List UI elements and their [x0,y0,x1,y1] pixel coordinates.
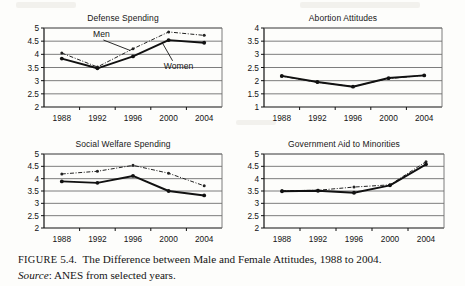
y-axis-tick-label: 3 [34,198,39,208]
y-axis-tick-label: 1.5 [247,89,259,99]
y-axis-tick-label: 4.5 [27,36,39,46]
y-axis-tick-label: 4.5 [27,161,39,171]
x-axis-tick-label: 1996 [344,113,363,123]
annotation-leader-women [163,43,173,61]
x-axis-tick-label: 1988 [53,113,72,123]
chart-title: Social Welfare Spending [18,139,228,149]
x-axis-tick-label: 1992 [88,234,107,244]
data-point-men [132,47,135,50]
chart-panel-government-aid-to-minorities: Government Aid to Minorities 22.533.544.… [238,139,450,251]
data-point-women [202,194,206,198]
figure-caption-text: The Difference between Male and Female A… [83,253,382,265]
x-axis-tick-label: 2000 [159,113,178,123]
source-text: : ANES from selected years. [49,269,176,281]
y-axis-tick-label: 3.5 [247,186,259,196]
y-axis-tick-label: 5 [254,150,259,159]
chart-title: Defense Spending [18,13,228,23]
y-axis-tick-label: 4 [34,174,39,184]
data-point-women [351,85,355,89]
data-point-men [167,30,170,33]
x-axis-tick-label: 2004 [195,234,214,244]
chart-panel-abortion-attitudes: Abortion Attitudes 11.522.533.5419881992… [238,13,448,131]
figure-number: 5.4. [60,253,77,265]
y-axis-tick-label: 2 [254,76,259,86]
data-point-women [167,189,171,193]
x-axis-tick-label: 1988 [273,234,292,244]
y-axis-tick-label: 4 [254,24,259,33]
x-axis-tick-label: 1996 [124,234,143,244]
data-point-men [203,184,206,187]
data-point-women [388,183,392,187]
x-axis-tick-label: 1988 [273,113,292,123]
data-point-men [353,186,356,189]
y-axis-tick-label: 2.5 [247,211,259,221]
data-point-women [280,189,284,193]
x-axis-tick-label: 2004 [417,234,436,244]
chart-panel-defense-spending: Defense Spending 22.533.544.551988199219… [18,13,228,131]
y-axis-tick-label: 3 [254,198,259,208]
data-point-men [132,164,135,167]
y-axis-tick-label: 3 [34,76,39,86]
data-point-men [60,172,63,175]
x-axis-tick-label: 1996 [124,113,143,123]
x-axis-tick-label: 1992 [88,113,107,123]
data-point-women [131,55,135,59]
chart-plot: 11.522.533.5419881992199620002004 [238,24,448,129]
x-axis-tick-label: 1992 [308,113,327,123]
data-point-women [202,41,206,45]
chart-title: Government Aid to Minorities [238,139,450,149]
chart-plot: 22.533.544.5519881992199620002004 [238,150,450,250]
data-point-men [96,170,99,173]
y-axis-tick-label: 5 [34,24,39,33]
data-point-women [316,189,320,193]
x-axis-tick-label: 2000 [379,113,398,123]
y-axis-tick-label: 2.5 [27,89,39,99]
source-label: Source [18,269,49,281]
data-point-women [422,74,426,78]
data-point-women [60,57,64,61]
data-point-women [316,80,320,84]
data-point-women [280,74,284,78]
x-axis-tick-label: 2000 [381,234,400,244]
x-axis-tick-label: 2004 [195,113,214,123]
y-axis-tick-label: 2.5 [247,63,259,73]
x-axis-tick-label: 1988 [53,234,72,244]
chart-title: Abortion Attitudes [238,13,448,23]
x-axis-tick-label: 2000 [159,234,178,244]
data-point-men [203,34,206,37]
data-point-women [131,174,135,178]
data-point-men [60,52,63,55]
y-axis-tick-label: 1 [254,102,259,112]
chart-plot: 22.533.544.5519881992199620002004MenWome… [18,24,228,129]
y-axis-tick-label: 2.5 [27,211,39,221]
y-axis-tick-label: 2 [254,223,259,233]
y-axis-tick-label: 3.5 [247,36,259,46]
y-axis-tick-label: 4.5 [247,161,259,171]
y-axis-tick-label: 3.5 [27,63,39,73]
figure-caption: FIGURE 5.4. The Difference between Male … [18,252,450,282]
y-axis-tick-label: 5 [34,150,39,159]
y-axis-tick-label: 2 [34,102,39,112]
y-axis-tick-label: 3.5 [27,186,39,196]
x-axis-tick-label: 2004 [415,113,434,123]
figure-page: Defense Spending 22.533.544.551988199219… [0,0,465,286]
data-point-women [96,181,100,185]
chart-panel-social-welfare-spending: Social Welfare Spending 22.533.544.55198… [18,139,228,251]
data-point-men [167,172,170,175]
y-axis-tick-label: 3 [254,49,259,59]
data-point-women [352,191,356,195]
figure-label: FIGURE [18,254,57,265]
chart-plot: 22.533.544.5519881992199620002004 [18,150,228,250]
data-point-women [167,38,171,42]
y-axis-tick-label: 2 [34,223,39,233]
y-axis-tick-label: 4 [254,174,259,184]
annotation-label-women: Women [164,61,194,71]
x-axis-tick-label: 1996 [345,234,364,244]
data-point-women [60,179,64,183]
x-axis-tick-label: 1992 [309,234,328,244]
data-point-women [96,66,100,70]
data-point-women [424,162,428,166]
data-point-women [387,76,391,80]
y-axis-tick-label: 4 [34,49,39,59]
annotation-label-men: Men [93,29,110,39]
